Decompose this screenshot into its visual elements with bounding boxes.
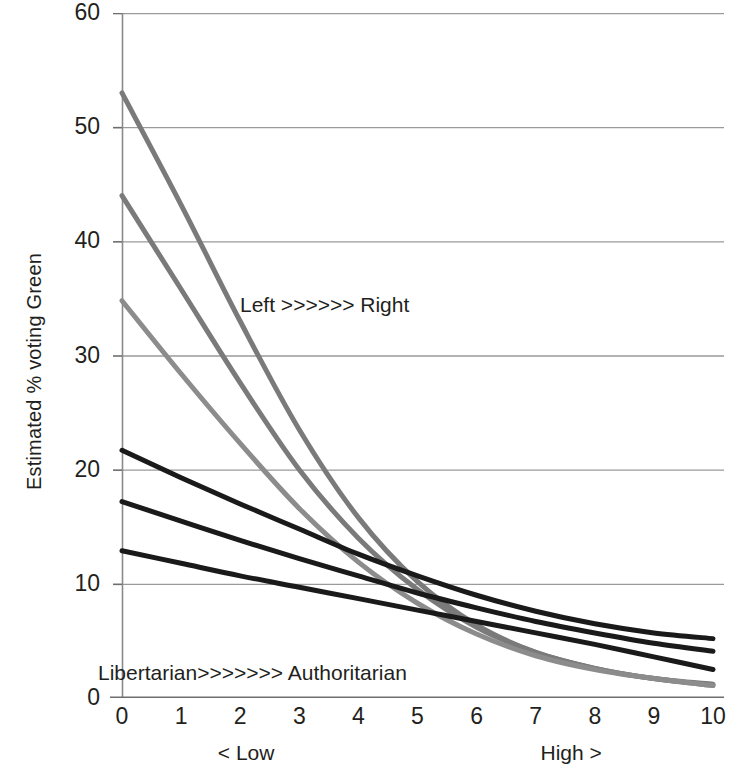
series-line-5 [122,551,713,670]
annotation-libertarian-authoritarian: Libertarian>>>>>>> Authoritarian [98,662,407,684]
y-axis-tick-labels: 0102030405060 [56,0,100,769]
y-tick-label: 20 [58,458,100,481]
annotation-left-right: Left >>>>>> Right [240,294,409,316]
plot-area [110,13,724,698]
x-axis-caption: < Low [176,742,316,764]
y-tick-label: 0 [58,686,100,709]
x-tick-label: 4 [338,704,378,728]
x-tick-label: 0 [102,704,142,728]
x-tick-label: 5 [398,704,438,728]
series-line-0 [122,93,713,684]
data-series-group [122,93,713,686]
y-tick-label: 30 [58,344,100,367]
chart-figure: Estimated % voting Green 0102030405060 0… [0,0,743,769]
y-tick-label: 40 [58,229,100,252]
gridlines [122,14,724,585]
x-tick-label: 3 [279,704,319,728]
x-tick-label: 7 [516,704,556,728]
x-tick-label: 8 [575,704,615,728]
x-axis-caption: High > [501,742,641,764]
y-tick-label: 10 [58,572,100,595]
x-tick-label: 6 [457,704,497,728]
x-tick-label: 9 [634,704,674,728]
x-tick-label: 10 [693,704,733,728]
x-tick-label: 2 [220,704,260,728]
y-axis-title: Estimated % voting Green [23,142,46,602]
y-tick-label: 50 [58,115,100,138]
y-tick-label: 60 [58,1,100,24]
x-tick-label: 1 [161,704,201,728]
plot-svg [110,13,724,698]
